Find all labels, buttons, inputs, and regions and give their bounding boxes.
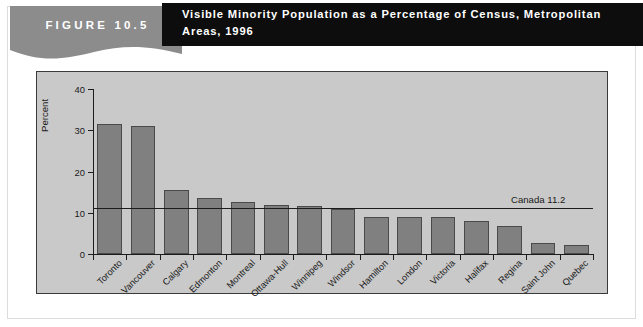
x-tick-label: Calgary — [161, 258, 190, 287]
y-axis-title: Percent — [39, 99, 50, 132]
bar — [497, 226, 522, 254]
x-tick-label: Regina — [496, 258, 524, 286]
bar — [197, 198, 222, 254]
x-tick — [560, 255, 561, 260]
x-tick-label: Windsor — [326, 258, 357, 289]
x-tick-label: Winnipeg — [290, 258, 324, 292]
x-tick-label: Hamilton — [358, 258, 391, 291]
figure-title: Visible Minority Population as a Percent… — [182, 6, 634, 40]
bar — [97, 124, 122, 254]
x-tick-label: Edmonton — [187, 258, 224, 295]
bar — [431, 217, 456, 254]
y-tick — [88, 172, 93, 173]
x-tick — [426, 255, 427, 260]
bar — [464, 221, 489, 254]
bar — [531, 243, 556, 254]
x-tick-label: Vancouver — [119, 258, 157, 296]
x-tick — [593, 255, 594, 260]
figure-header: FIGURE 10.5 Visible Minority Population … — [0, 0, 643, 60]
x-tick — [460, 255, 461, 260]
x-tick-label: Saint John — [519, 258, 557, 296]
bar — [364, 217, 389, 254]
bar — [164, 190, 189, 254]
x-tick-label: Halifax — [463, 258, 490, 285]
bar — [331, 209, 356, 254]
y-tick-label: 0 — [80, 249, 85, 260]
canada-average-line — [93, 208, 593, 210]
x-tick — [260, 255, 261, 260]
y-tick-label: 40 — [75, 84, 85, 95]
x-tick — [226, 255, 227, 260]
x-tick — [193, 255, 194, 260]
figure-page: FIGURE 10.5 Visible Minority Population … — [0, 0, 643, 327]
bar — [231, 202, 256, 254]
bar — [564, 245, 589, 254]
x-tick — [160, 255, 161, 260]
x-tick — [526, 255, 527, 260]
x-tick — [360, 255, 361, 260]
chart-container: Percent 010203040 TorontoVancouverCalgar… — [36, 71, 608, 294]
bar — [264, 205, 289, 254]
y-axis-line — [93, 89, 94, 255]
bar — [397, 217, 422, 254]
y-tick-label: 20 — [75, 166, 85, 177]
y-tick — [88, 213, 93, 214]
x-tick — [93, 255, 94, 260]
x-tick-label: Toronto — [95, 258, 124, 287]
x-tick — [493, 255, 494, 260]
x-tick-label: London — [395, 258, 424, 287]
x-tick-label: Victoria — [428, 258, 457, 287]
canada-average-label: Canada 11.2 — [511, 194, 565, 205]
bar — [131, 126, 156, 254]
y-tick-label: 30 — [75, 125, 85, 136]
x-axis-line — [93, 254, 594, 255]
x-tick — [126, 255, 127, 260]
x-tick — [326, 255, 327, 260]
x-tick — [293, 255, 294, 260]
x-tick — [393, 255, 394, 260]
y-tick-label: 10 — [75, 207, 85, 218]
bar — [297, 206, 322, 254]
x-tick-label: Quebec — [561, 258, 591, 288]
x-tick-label: Montreal — [225, 258, 257, 290]
y-tick — [88, 89, 93, 90]
y-tick — [88, 130, 93, 131]
figure-number: FIGURE 10.5 — [10, 6, 182, 44]
